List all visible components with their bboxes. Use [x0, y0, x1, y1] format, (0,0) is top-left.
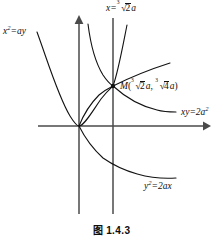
radical-cbrt2-x: 3√2 — [131, 81, 145, 92]
label-xline-lhs: x= — [106, 3, 117, 13]
label-x2ay-rest: =ay — [10, 26, 25, 36]
radical-index: 3 — [155, 78, 158, 84]
label-point-M: M(3√2a, 3√4a) — [120, 81, 178, 92]
label-vertical-line: x=3√2a — [106, 3, 136, 14]
radical-index: 3 — [117, 0, 120, 5]
label-M-name: M — [120, 81, 128, 91]
figure-caption: 图 1.4.3 — [0, 222, 223, 237]
label-curve-xy-equals-2a-squared: xy=2a2 — [181, 106, 209, 118]
radical-cbrt2: 3√2 — [117, 3, 131, 14]
intersection-point-marker — [111, 84, 115, 88]
x-axis-arrowhead — [203, 122, 211, 131]
radical-radicand: 2 — [140, 81, 146, 92]
radical-cbrt4-y: 3√4 — [155, 81, 169, 92]
label-curve-x-squared-equals-ay: x2=ay — [3, 25, 26, 37]
label-M-close-paren: ) — [175, 81, 178, 91]
label-xline-suffix: a — [131, 3, 136, 13]
radical-radicand: 2 — [125, 3, 131, 14]
y-axis-arrowhead — [75, 15, 84, 24]
coordinate-plot — [0, 0, 223, 242]
label-xy-base: xy=2a — [181, 107, 205, 117]
curve-y-squared-equals-2ax-lower — [79, 126, 176, 178]
curve-y-squared-equals-2ax-upper — [79, 63, 170, 126]
radical-radicand: 4 — [164, 81, 170, 92]
label-y2ax-rest: =2ax — [151, 181, 171, 191]
figure-container: x2=ay x=3√2a M(3√2a, 3√4a) xy=2a2 y2=2ax… — [0, 0, 223, 242]
label-xy-exponent: 2 — [205, 105, 208, 112]
label-curve-y-squared-equals-2ax: y2=2ax — [144, 180, 172, 192]
radical-index: 3 — [131, 78, 134, 84]
